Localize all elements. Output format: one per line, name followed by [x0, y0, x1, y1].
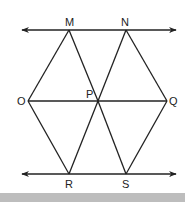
label-O: O [17, 95, 26, 107]
segment-PR [69, 101, 98, 174]
segment-MO [28, 30, 69, 101]
label-N: N [121, 16, 129, 28]
footer-band [0, 193, 185, 202]
segment-PS [98, 101, 126, 174]
label-P: P [86, 88, 93, 100]
label-M: M [65, 16, 74, 28]
segment-NQ [126, 30, 167, 101]
geometry-diagram: M N O P Q R S [0, 0, 185, 202]
label-S: S [122, 178, 129, 190]
label-R: R [65, 178, 73, 190]
segment-NP [98, 30, 126, 101]
segment-MP [69, 30, 98, 101]
segment-QS [126, 101, 167, 174]
segment-OR [28, 101, 69, 174]
label-Q: Q [169, 95, 178, 107]
